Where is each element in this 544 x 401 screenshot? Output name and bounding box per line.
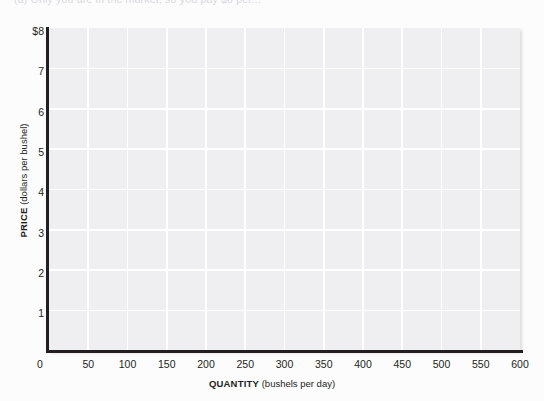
- y-axis-title-bold: PRICE: [18, 207, 29, 237]
- x-tick-label: 300: [263, 358, 307, 370]
- x-tick-label: 450: [380, 358, 424, 370]
- y-axis-title: PRICE (dollars per bushel): [18, 86, 29, 276]
- x-tick-label: 350: [302, 358, 346, 370]
- chart-figure: (a) Only you are in the market, so you p…: [0, 0, 544, 401]
- x-tick-label: 500: [420, 358, 464, 370]
- y-axis-title-light: (dollars per bushel): [18, 124, 29, 205]
- x-tick-label: 250: [223, 358, 267, 370]
- x-tick-label: 400: [341, 358, 385, 370]
- x-axis-title-bold: QUANTITY: [209, 378, 259, 389]
- y-axis-title-units: [18, 205, 29, 208]
- x-tick-label: 200: [184, 358, 228, 370]
- x-tick-label: 100: [106, 358, 150, 370]
- x-tick-label: 600: [498, 358, 542, 370]
- x-axis-tick-labels: 0 50 100 150 200 250 300 350 400 450 500…: [0, 0, 544, 401]
- x-tick-label: 50: [66, 358, 110, 370]
- x-tick-label: 550: [459, 358, 503, 370]
- x-axis-title-light: (bushels per day): [262, 378, 335, 389]
- x-tick-label: 150: [145, 358, 189, 370]
- x-axis-title: QUANTITY (bushels per day): [0, 378, 544, 389]
- x-tick-label: 0: [18, 358, 62, 370]
